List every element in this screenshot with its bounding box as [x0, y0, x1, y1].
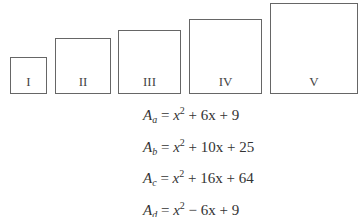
equation-list: Aa = x2 + 6x + 9 Ab = x2 + 10x + 25 Ac =…	[143, 100, 254, 217]
square-v: V	[270, 3, 358, 94]
square-label: IV	[190, 74, 261, 90]
equation-b: Ab = x2 + 10x + 25	[143, 132, 254, 164]
equation-a: Aa = x2 + 6x + 9	[143, 100, 254, 132]
square-label: V	[271, 74, 357, 90]
square-i: I	[10, 57, 47, 94]
equation-c: Ac = x2 + 16x + 64	[143, 163, 254, 195]
square-iii: III	[118, 30, 181, 94]
equation-d: Ad = x2 − 6x + 9	[143, 195, 254, 218]
square-label: II	[56, 74, 110, 90]
square-label: III	[119, 74, 180, 90]
square-ii: II	[55, 38, 111, 94]
square-iv: IV	[189, 19, 262, 94]
square-label: I	[11, 74, 46, 90]
